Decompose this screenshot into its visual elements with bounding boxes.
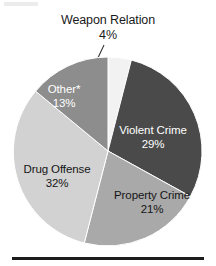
slice-label-property-crime-name: Property Crime [114,189,190,201]
slice-label-violent-crime-name: Violent Crime [119,124,187,136]
slice-label-property-crime: Property Crime 21% [106,189,198,216]
slice-label-other-value: 13% [36,97,92,111]
slice-label-property-crime-value: 21% [106,203,198,217]
slice-label-drug-offense-value: 32% [10,177,104,191]
pie-chart-figure: Weapon Relation 4% Violent Crime 29% Pro… [0,0,216,266]
slice-label-drug-offense-name: Drug Offense [24,163,91,175]
slice-label-other-name: Other* [48,83,81,95]
bottom-rule [12,257,204,260]
slice-label-other: Other* 13% [36,83,92,110]
slice-label-violent-crime-value: 29% [112,138,194,152]
slice-label-drug-offense: Drug Offense 32% [10,163,104,190]
slice-label-violent-crime: Violent Crime 29% [112,124,194,151]
